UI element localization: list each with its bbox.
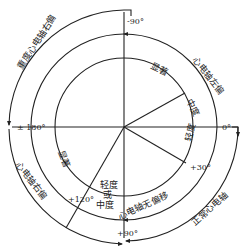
angle-minus90: -90°	[127, 17, 144, 26]
outer-top-tick	[124, 10, 131, 16]
label-marked-left: 显著	[56, 149, 73, 170]
angle-plus90: +90°	[117, 229, 138, 238]
angle-180: ± 180°	[17, 123, 46, 132]
label-normal-axis: 正常心电轴	[189, 189, 230, 227]
label-severe-right-deviation: 重度心电轴右偏	[14, 12, 58, 71]
label-mild: 轻度	[182, 122, 197, 142]
outer-arc-normal	[126, 127, 238, 241]
angle-0: 0°	[222, 123, 231, 132]
label-moderate: 中度	[184, 97, 202, 118]
label-marked-top: 显著	[149, 60, 170, 78]
plus120-radius	[66, 127, 124, 228]
plus30-radius	[124, 127, 186, 163]
label-mild-or-moderate-1: 轻度	[100, 179, 118, 190]
label-mild-or-moderate-3: 中度	[96, 199, 114, 210]
label-mild-or-moderate-2: 或	[103, 189, 112, 200]
angle-plus120: +120°	[68, 195, 94, 204]
middle-arc-left-deviation	[124, 34, 217, 127]
angle-plus30: +30°	[190, 163, 211, 172]
minus30-radius	[124, 93, 185, 127]
cardiac-axis-diagram: -90° ± 180° 0° +90° +30° +120° 重度心电轴右偏 心…	[0, 0, 245, 249]
outer-arc-severe-right	[9, 10, 124, 125]
outer-right-tick	[232, 127, 238, 136]
label-left-deviation: 心电轴左偏	[190, 54, 226, 96]
